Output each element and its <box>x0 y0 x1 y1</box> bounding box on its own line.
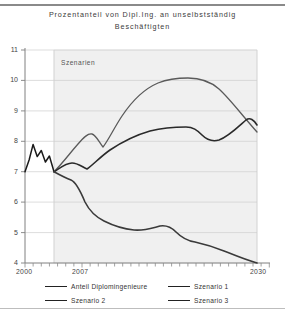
legend-label: Szenario 2 <box>71 297 106 304</box>
legend-swatch-icon <box>45 286 67 287</box>
legend-item-szenario-2[interactable]: Szenario 2 <box>45 294 106 306</box>
chart-title-line-1: Prozentanteil von Dipl.Ing. an unselbsts… <box>0 9 285 21</box>
y-tick-label-7: 7 <box>4 168 18 175</box>
legend-swatch-icon <box>168 300 190 301</box>
scenarios-annotation: Szenarien <box>61 59 95 66</box>
x-tick-marks <box>25 263 269 268</box>
legend-item-szenario-1[interactable]: Szenario 1 <box>168 280 229 292</box>
y-tick-label-8: 8 <box>4 137 18 144</box>
legend-label: Anteil Diplomingenieure <box>71 283 148 290</box>
legend-label: Szenario 3 <box>194 297 229 304</box>
x-tick-label-2030: 2030 <box>250 268 266 275</box>
series-line-anteil-diplomingenieure <box>25 144 54 171</box>
legend-label: Szenario 1 <box>194 283 229 290</box>
x-tick-label-2000: 2000 <box>16 268 32 275</box>
y-tick-marks <box>21 50 25 263</box>
legend-item-anteil-diplomingenieure[interactable]: Anteil Diplomingenieure <box>45 280 148 292</box>
scenario-shaded-region <box>54 50 257 263</box>
y-tick-label-9: 9 <box>4 107 18 114</box>
y-tick-label-5: 5 <box>4 229 18 236</box>
chart-legend: Anteil Diplomingenieure Szenario 2 Szena… <box>0 277 285 309</box>
top-divider <box>0 4 285 6</box>
chart-figure: Prozentanteil von Dipl.Ing. an unselbsts… <box>0 0 285 309</box>
y-tick-label-10: 10 <box>4 76 18 83</box>
plot-svg <box>0 44 285 270</box>
y-tick-label-6: 6 <box>4 198 18 205</box>
legend-item-szenario-3[interactable]: Szenario 3 <box>168 294 229 306</box>
legend-swatch-icon <box>45 300 67 301</box>
y-tick-label-4: 4 <box>4 259 18 266</box>
x-tick-label-2007: 2007 <box>72 268 88 275</box>
chart-title: Prozentanteil von Dipl.Ing. an unselbsts… <box>0 9 285 33</box>
y-tick-label-11: 11 <box>4 46 18 53</box>
chart-title-line-2: Beschäftigten <box>0 21 285 33</box>
plot-area: 11 10 9 8 7 6 5 4 2000 2007 2030 Szenari… <box>0 44 285 270</box>
legend-swatch-icon <box>168 286 190 287</box>
